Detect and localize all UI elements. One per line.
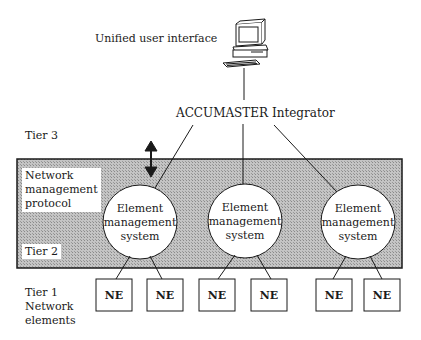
diagram-canvas: Unified user interface ACCUMASTER Integr… <box>0 0 421 340</box>
protocol-label-line1: Network <box>25 169 98 183</box>
tier1-label-network: Network <box>25 300 76 314</box>
computer-terminal-icon <box>223 19 268 67</box>
ems-1-line3: system <box>103 230 177 244</box>
ne-1-label: NE <box>96 289 132 302</box>
unified-user-interface-label: Unified user interface <box>95 32 217 45</box>
ne-6-label: NE <box>364 289 400 302</box>
tier1-network-elements-label: Tier 1 Network elements <box>25 286 76 328</box>
network-management-protocol-label: Network management protocol <box>22 168 101 212</box>
ems-2-line2: management <box>208 215 282 229</box>
ems-3-label: Element management system <box>321 202 395 244</box>
ne-5-label: NE <box>316 289 352 302</box>
ems-1-line2: management <box>103 216 177 230</box>
ne-boxes <box>96 279 400 311</box>
protocol-label-line3: protocol <box>25 197 98 211</box>
ne-4-label: NE <box>251 289 287 302</box>
ne-3-label: NE <box>199 289 235 302</box>
tier2-label: Tier 2 <box>22 244 61 259</box>
tier1-label-elements: elements <box>25 314 76 328</box>
ne-2-label: NE <box>147 289 183 302</box>
accumaster-integrator-label: ACCUMASTER Integrator <box>176 107 335 120</box>
ems-3-line1: Element <box>321 202 395 216</box>
ems-2-label: Element management system <box>208 201 282 243</box>
ems-3-line3: system <box>321 230 395 244</box>
ems-2-line3: system <box>208 229 282 243</box>
ems-2-line1: Element <box>208 201 282 215</box>
ems-3-line2: management <box>321 216 395 230</box>
protocol-label-line2: management <box>25 183 98 197</box>
tier1-label: Tier 1 <box>25 286 76 300</box>
tier3-label: Tier 3 <box>25 129 58 142</box>
ems-1-line1: Element <box>103 202 177 216</box>
ems-1-label: Element management system <box>103 202 177 244</box>
